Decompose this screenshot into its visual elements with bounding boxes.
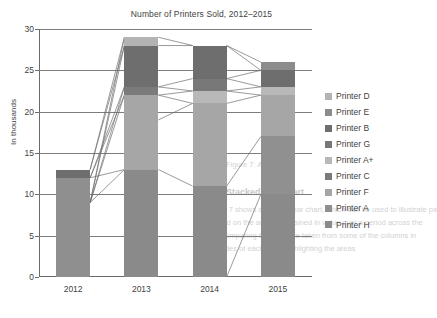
connector-line: [158, 79, 192, 87]
legend-item[interactable]: Printer G: [325, 136, 401, 152]
chart-title: Number of Printers Sold, 2012–2015: [0, 9, 403, 19]
legend-item[interactable]: Printer A+: [325, 152, 401, 168]
x-axis-tick-label: 2013: [132, 284, 151, 294]
legend-item[interactable]: Printer H: [325, 217, 401, 233]
legend-item[interactable]: Printer C: [325, 168, 401, 184]
legend-item[interactable]: Printer A: [325, 201, 401, 217]
bar-segment[interactable]: [261, 95, 295, 136]
y-axis-tick: [35, 194, 39, 195]
bar-segment[interactable]: [261, 136, 295, 194]
legend-swatch-icon: [325, 125, 332, 132]
bar-stack[interactable]: [124, 29, 158, 277]
y-axis-tick-label: 15: [25, 148, 34, 158]
bar-segment[interactable]: [124, 46, 158, 87]
bar-stack[interactable]: [56, 29, 90, 277]
legend-item-label: Printer E: [336, 108, 369, 117]
legend-item[interactable]: Printer E: [325, 104, 401, 120]
legend-swatch-icon: [325, 221, 332, 228]
connector-line: [90, 95, 124, 178]
bar-segment[interactable]: [261, 87, 295, 95]
legend-item-label: Printer A: [336, 204, 369, 213]
chart-legend: Printer DPrinter EPrinter BPrinter GPrin…: [325, 88, 401, 233]
connector-line: [90, 170, 124, 178]
y-axis-tick: [35, 29, 39, 30]
y-axis-tick-label: 5: [29, 231, 34, 241]
connector-line: [227, 91, 261, 95]
connector-line: [158, 87, 192, 91]
y-axis-tick-label: 0: [29, 272, 34, 282]
legend-item[interactable]: Printer B: [325, 120, 401, 136]
y-axis-tick: [35, 277, 39, 278]
bar-segment[interactable]: [193, 186, 227, 277]
connector-line: [227, 46, 261, 71]
legend-item-label: Printer G: [336, 140, 370, 149]
x-axis-tick-label: 2014: [200, 284, 219, 294]
y-axis-tick-label: 20: [25, 107, 34, 117]
legend-item-label: Printer B: [336, 124, 369, 133]
y-axis-tick-label: 10: [25, 189, 34, 199]
connector-line: [227, 79, 261, 87]
bar-segment[interactable]: [193, 79, 227, 91]
legend-swatch-icon: [325, 141, 332, 148]
y-axis-tick-label: 25: [25, 65, 34, 75]
connector-line: [158, 170, 192, 187]
connector-line: [90, 46, 124, 170]
bar-segment[interactable]: [124, 170, 158, 277]
legend-item[interactable]: Printer F: [325, 185, 401, 201]
connector-line: [227, 95, 261, 103]
connector-line: [227, 70, 261, 78]
connector-line: [90, 37, 124, 169]
y-axis-tick: [35, 236, 39, 237]
legend-swatch-icon: [325, 109, 332, 116]
legend-item[interactable]: Printer D: [325, 88, 401, 104]
connector-line: [90, 87, 124, 178]
y-axis-tick: [35, 70, 39, 71]
x-axis-tick-label: 2015: [268, 284, 287, 294]
bar-segment[interactable]: [261, 70, 295, 87]
bar-segment[interactable]: [124, 95, 158, 169]
bar-segment[interactable]: [193, 91, 227, 103]
legend-swatch-icon: [325, 157, 332, 164]
bar-segment[interactable]: [124, 37, 158, 45]
connector-line: [158, 37, 192, 45]
x-axis-tick-label: 2012: [64, 284, 83, 294]
legend-item-label: Printer D: [336, 92, 370, 101]
bar-segment[interactable]: [193, 46, 227, 79]
legend-swatch-icon: [325, 173, 332, 180]
bar-segment[interactable]: [193, 103, 227, 186]
y-axis-tick: [35, 112, 39, 113]
legend-swatch-icon: [325, 205, 332, 212]
bar-segment[interactable]: [124, 87, 158, 95]
y-axis-tick: [35, 153, 39, 154]
connector-line: [90, 170, 124, 203]
legend-item-label: Printer C: [336, 172, 370, 181]
connector-line: [158, 91, 192, 95]
y-axis-tick-label: 30: [25, 24, 34, 34]
connector-line: [90, 87, 124, 203]
legend-swatch-icon: [325, 189, 332, 196]
bar-stack[interactable]: [193, 29, 227, 277]
connector-line: [227, 136, 261, 186]
legend-swatch-icon: [325, 93, 332, 100]
bar-segment[interactable]: [261, 62, 295, 70]
connector-line: [90, 46, 124, 203]
plot-area: 051015202530 2012201320142015: [39, 29, 312, 277]
y-axis-title: In thousands: [9, 99, 18, 145]
connector-line: [227, 46, 261, 63]
bar-segment[interactable]: [56, 170, 90, 178]
connector-line: [90, 37, 124, 202]
connector-line: [158, 95, 192, 103]
bar-stack[interactable]: [261, 29, 295, 277]
bar-segment[interactable]: [261, 194, 295, 277]
legend-item-label: Printer F: [336, 188, 369, 197]
legend-item-label: Printer H: [336, 221, 370, 230]
legend-item-label: Printer A+: [336, 156, 374, 165]
connector-line: [227, 87, 261, 91]
bar-segment[interactable]: [56, 178, 90, 277]
